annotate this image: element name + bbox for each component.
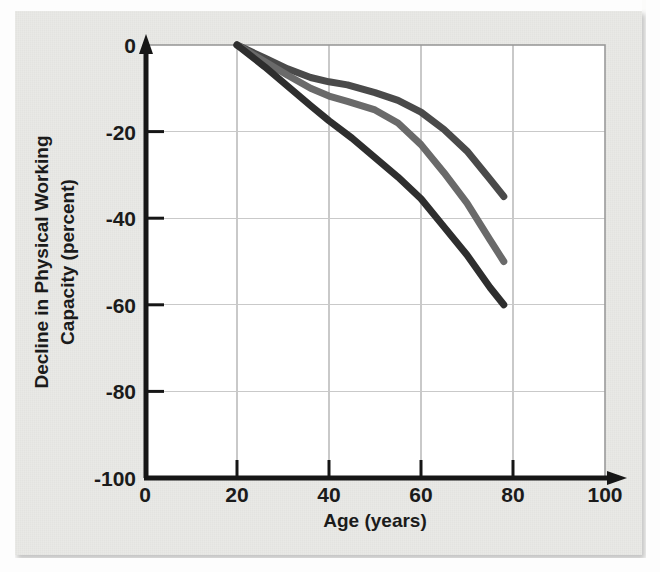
x-tick-label: 40 [317, 483, 340, 506]
line-chart: 0-20-40-60-80-100 020406080100 Age (year… [0, 0, 660, 572]
x-axis-tick-labels: 020406080100 [139, 483, 622, 506]
x-tick-label: 80 [501, 483, 524, 506]
x-tick-label: 0 [139, 483, 151, 506]
y-axis-label-line2: Capacity (percent) [57, 179, 78, 345]
x-tick-label: 20 [225, 483, 248, 506]
y-tick-label: 0 [124, 34, 136, 57]
y-tick-label: -60 [106, 294, 136, 317]
y-tick-label: -80 [106, 380, 136, 403]
y-axis-arrowhead [139, 34, 153, 54]
y-tick-label: -40 [106, 207, 136, 230]
figure-page: 0-20-40-60-80-100 020406080100 Age (year… [0, 0, 660, 572]
y-tick-label: -20 [106, 121, 136, 144]
x-tick-label: 60 [409, 483, 432, 506]
y-tick-label: -100 [94, 467, 136, 490]
y-axis-label-line1: Decline in Physical Working [31, 135, 52, 388]
x-tick-label: 100 [587, 483, 622, 506]
y-axis-tick-labels: 0-20-40-60-80-100 [94, 34, 136, 490]
x-axis-label: Age (years) [323, 510, 427, 531]
